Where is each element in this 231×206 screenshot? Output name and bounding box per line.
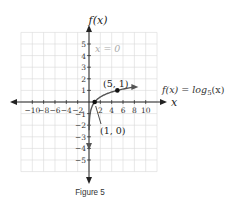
curve-right-arrow-icon bbox=[131, 84, 138, 90]
asymptote-label: x = 0 bbox=[95, 43, 120, 54]
log-function-graph: −10−8−6−4−2246810−5−4−3−2−112345 f(x) x … bbox=[0, 0, 231, 206]
y-tick-label: −4 bbox=[75, 144, 86, 153]
curve-down-arrow-icon bbox=[86, 143, 92, 150]
point-label-1-0: (1, 0) bbox=[100, 125, 126, 136]
figure-caption: Figure 5 bbox=[14, 186, 167, 197]
y-tick-label: 5 bbox=[81, 40, 86, 49]
y-tick-label: −3 bbox=[75, 133, 86, 142]
y-tick-label: 4 bbox=[81, 52, 86, 61]
function-label-prefix: f(x) = log bbox=[161, 84, 207, 95]
point-label-5-1: (5, 1) bbox=[103, 78, 129, 89]
y-axis-down-arrow-icon bbox=[86, 177, 92, 184]
x-axis-label: x bbox=[171, 96, 178, 109]
y-tick-label: 1 bbox=[81, 86, 86, 95]
x-tick-label: 2 bbox=[98, 106, 103, 115]
x-axis-left-arrow-icon bbox=[10, 99, 17, 105]
x-tick-label: 6 bbox=[121, 106, 126, 115]
y-tick-label: −1 bbox=[75, 110, 86, 119]
data-point bbox=[92, 100, 97, 105]
x-tick-label: −8 bbox=[38, 106, 49, 115]
y-tick-label: −5 bbox=[75, 156, 86, 165]
log-curve bbox=[86, 84, 138, 150]
x-tick-label: 10 bbox=[141, 106, 151, 115]
x-axis-right-arrow-icon bbox=[160, 99, 167, 105]
y-tick-label: −2 bbox=[75, 121, 86, 130]
x-tick-label: −4 bbox=[61, 106, 72, 115]
function-label-suffix: (x) bbox=[212, 84, 225, 95]
x-tick-label: 8 bbox=[132, 106, 137, 115]
x-tick-label: −6 bbox=[49, 106, 60, 115]
x-tick-label: 4 bbox=[109, 106, 114, 115]
y-axis-label: f(x) bbox=[88, 14, 108, 27]
y-tick-label: 2 bbox=[81, 75, 86, 84]
y-tick-label: 3 bbox=[81, 63, 86, 72]
